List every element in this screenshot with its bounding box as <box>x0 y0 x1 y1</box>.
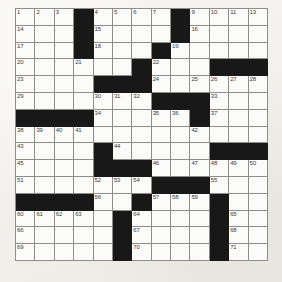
grid-cell[interactable]: 26 <box>210 76 229 93</box>
grid-cell[interactable] <box>55 59 74 76</box>
grid-cell[interactable] <box>35 143 54 160</box>
grid-cell[interactable] <box>171 76 190 93</box>
grid-cell[interactable] <box>210 26 229 43</box>
grid-cell[interactable] <box>229 127 248 144</box>
grid-cell[interactable]: 66 <box>16 227 35 244</box>
grid-cell[interactable]: 52 <box>94 177 113 194</box>
grid-cell[interactable]: 27 <box>229 76 248 93</box>
grid-cell[interactable]: 17 <box>16 43 35 60</box>
grid-cell[interactable]: 49 <box>229 160 248 177</box>
grid-cell[interactable] <box>55 76 74 93</box>
grid-cell[interactable]: 34 <box>94 110 113 127</box>
grid-cell[interactable]: 47 <box>190 160 209 177</box>
grid-cell[interactable]: 32 <box>132 93 151 110</box>
grid-cell[interactable]: 5 <box>113 9 132 26</box>
grid-cell[interactable] <box>249 227 268 244</box>
grid-cell[interactable]: 64 <box>132 211 151 228</box>
grid-cell[interactable] <box>113 127 132 144</box>
grid-cell[interactable]: 39 <box>35 127 54 144</box>
grid-cell[interactable] <box>171 143 190 160</box>
grid-cell[interactable]: 29 <box>16 93 35 110</box>
grid-cell[interactable] <box>152 143 171 160</box>
grid-cell[interactable]: 46 <box>152 160 171 177</box>
grid-cell[interactable] <box>35 59 54 76</box>
grid-cell[interactable] <box>152 227 171 244</box>
grid-cell[interactable] <box>55 160 74 177</box>
grid-cell[interactable]: 1 <box>16 9 35 26</box>
grid-cell[interactable]: 59 <box>190 194 209 211</box>
grid-cell[interactable]: 67 <box>132 227 151 244</box>
grid-cell[interactable]: 14 <box>16 26 35 43</box>
grid-cell[interactable] <box>132 110 151 127</box>
grid-cell[interactable] <box>249 211 268 228</box>
grid-cell[interactable] <box>55 227 74 244</box>
grid-cell[interactable]: 3 <box>55 9 74 26</box>
grid-cell[interactable] <box>35 244 54 261</box>
grid-cell[interactable]: 19 <box>171 43 190 60</box>
grid-cell[interactable]: 9 <box>190 9 209 26</box>
grid-cell[interactable] <box>249 110 268 127</box>
grid-cell[interactable]: 61 <box>35 211 54 228</box>
grid-cell[interactable] <box>113 110 132 127</box>
grid-cell[interactable] <box>113 194 132 211</box>
grid-cell[interactable] <box>74 227 93 244</box>
grid-cell[interactable] <box>132 26 151 43</box>
grid-cell[interactable] <box>190 59 209 76</box>
grid-cell[interactable] <box>55 143 74 160</box>
grid-cell[interactable] <box>229 194 248 211</box>
grid-cell[interactable]: 65 <box>229 211 248 228</box>
grid-cell[interactable]: 25 <box>190 76 209 93</box>
grid-cell[interactable]: 30 <box>94 93 113 110</box>
grid-cell[interactable]: 69 <box>16 244 35 261</box>
grid-cell[interactable] <box>35 26 54 43</box>
grid-cell[interactable] <box>35 76 54 93</box>
grid-cell[interactable]: 18 <box>94 43 113 60</box>
grid-cell[interactable] <box>190 143 209 160</box>
grid-cell[interactable]: 70 <box>132 244 151 261</box>
grid-cell[interactable]: 60 <box>16 211 35 228</box>
grid-cell[interactable]: 41 <box>74 127 93 144</box>
grid-cell[interactable] <box>94 227 113 244</box>
grid-cell[interactable] <box>171 59 190 76</box>
grid-cell[interactable]: 4 <box>94 9 113 26</box>
grid-cell[interactable] <box>210 43 229 60</box>
grid-cell[interactable] <box>210 127 229 144</box>
grid-cell[interactable]: 13 <box>249 9 268 26</box>
grid-cell[interactable] <box>35 177 54 194</box>
grid-cell[interactable] <box>229 93 248 110</box>
grid-cell[interactable]: 43 <box>16 143 35 160</box>
grid-cell[interactable] <box>35 160 54 177</box>
grid-cell[interactable]: 58 <box>171 194 190 211</box>
grid-cell[interactable] <box>113 26 132 43</box>
grid-cell[interactable] <box>171 211 190 228</box>
grid-cell[interactable] <box>190 244 209 261</box>
grid-cell[interactable] <box>249 177 268 194</box>
grid-cell[interactable] <box>229 43 248 60</box>
grid-cell[interactable]: 53 <box>113 177 132 194</box>
grid-cell[interactable] <box>249 127 268 144</box>
grid-cell[interactable] <box>74 93 93 110</box>
grid-cell[interactable] <box>94 244 113 261</box>
grid-cell[interactable] <box>55 43 74 60</box>
grid-cell[interactable] <box>152 26 171 43</box>
grid-cell[interactable] <box>229 26 248 43</box>
grid-cell[interactable]: 36 <box>171 110 190 127</box>
grid-cell[interactable] <box>94 127 113 144</box>
grid-cell[interactable] <box>152 127 171 144</box>
grid-cell[interactable] <box>35 43 54 60</box>
grid-cell[interactable] <box>249 26 268 43</box>
grid-cell[interactable]: 23 <box>16 76 35 93</box>
grid-cell[interactable] <box>74 143 93 160</box>
grid-cell[interactable] <box>132 43 151 60</box>
grid-cell[interactable] <box>74 244 93 261</box>
grid-cell[interactable] <box>190 227 209 244</box>
grid-cell[interactable] <box>171 160 190 177</box>
grid-cell[interactable]: 21 <box>74 59 93 76</box>
grid-cell[interactable]: 33 <box>210 93 229 110</box>
grid-cell[interactable] <box>152 244 171 261</box>
grid-cell[interactable] <box>132 143 151 160</box>
grid-cell[interactable]: 54 <box>132 177 151 194</box>
grid-cell[interactable] <box>249 93 268 110</box>
grid-cell[interactable] <box>190 43 209 60</box>
grid-cell[interactable] <box>74 177 93 194</box>
